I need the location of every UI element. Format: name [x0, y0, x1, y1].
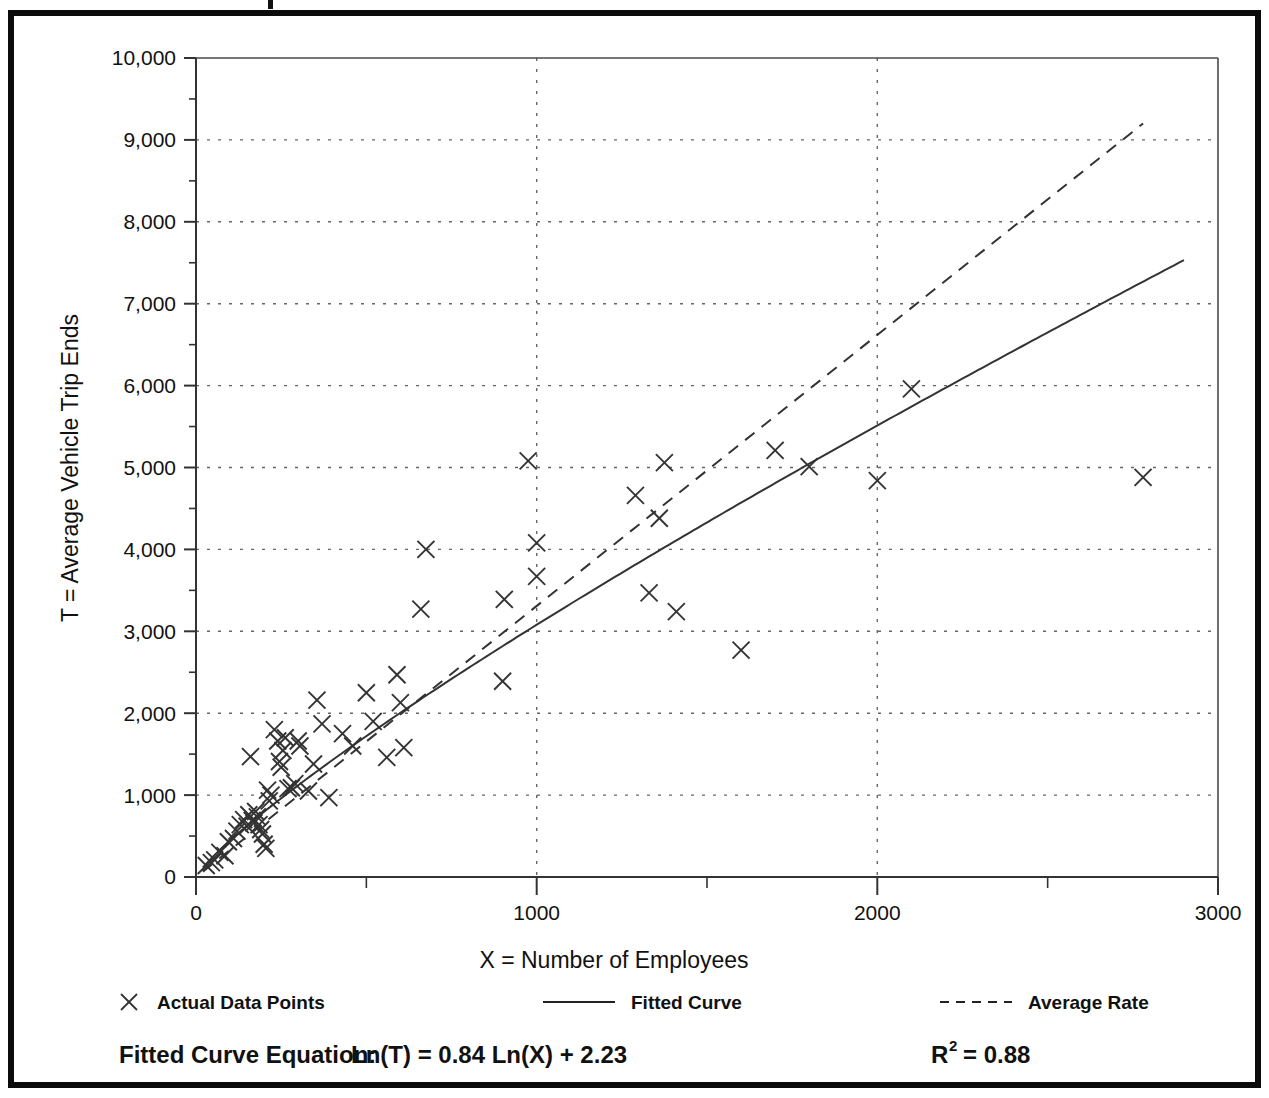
fitted-curve-line	[203, 260, 1184, 867]
data-point-marker	[334, 725, 351, 742]
data-point-marker	[365, 713, 382, 730]
y-tick-label: 4,000	[123, 538, 176, 561]
y-tick-label: 3,000	[123, 620, 176, 643]
data-point-marker	[528, 534, 545, 551]
equation-row: Fitted Curve Equation: Ln(T) = 0.84 Ln(X…	[119, 1037, 1030, 1068]
y-tick-label: 0	[164, 865, 176, 888]
y-tick-label: 5,000	[123, 456, 176, 479]
data-point-marker	[320, 789, 337, 806]
data-point-marker	[733, 642, 750, 659]
data-point-marker	[388, 666, 405, 683]
data-point-marker	[496, 591, 513, 608]
data-point-marker	[305, 755, 322, 772]
data-point-marker	[903, 380, 920, 397]
data-point-marker	[273, 759, 290, 776]
r-squared-base: R	[931, 1041, 948, 1068]
data-point-marker	[627, 487, 644, 504]
y-axis	[184, 58, 196, 877]
data-point-marker	[641, 584, 658, 601]
x-axis	[196, 877, 1218, 895]
data-point-marker	[395, 739, 412, 756]
legend-label: Actual Data Points	[157, 992, 325, 1013]
data-point-marker	[378, 749, 395, 766]
data-point-marker	[651, 510, 668, 527]
x-tick-label: 2000	[854, 901, 901, 924]
data-point-marker	[392, 694, 409, 711]
average-rate-path	[203, 124, 1143, 872]
data-point-marker	[242, 748, 259, 765]
legend-item-actual-data-points[interactable]: Actual Data Points	[121, 992, 325, 1013]
actual-data-points	[198, 380, 1152, 874]
data-point-marker	[528, 568, 545, 585]
data-point-marker	[358, 684, 375, 701]
grid-vertical	[537, 58, 878, 877]
legend-item-average-rate[interactable]: Average Rate	[940, 992, 1149, 1013]
y-axis-tick-labels: 10,000 9,000 8,000 7,000 6,000 5,000 4,0…	[112, 46, 176, 888]
data-point-marker	[417, 541, 434, 558]
average-rate-line	[203, 124, 1143, 872]
y-tick-label: 8,000	[123, 210, 176, 233]
x-axis-tick-labels: 0 1000 2000 3000	[190, 901, 1241, 924]
data-point-marker	[271, 753, 288, 770]
y-tick-label: 7,000	[123, 292, 176, 315]
plot-area-border	[196, 58, 1218, 877]
data-point-marker	[308, 692, 325, 709]
data-point-marker	[314, 715, 331, 732]
r-squared-exponent: 2	[949, 1037, 957, 1054]
data-point-marker	[656, 454, 673, 471]
fitted-curve-equation-value: Ln(T) = 0.84 Ln(X) + 2.23	[351, 1041, 627, 1068]
data-point-marker	[220, 833, 237, 850]
data-point-marker	[1135, 469, 1152, 486]
x-tick-label: 3000	[1195, 901, 1242, 924]
cross-icon	[121, 994, 137, 1010]
y-axis-title: T = Average Vehicle Trip Ends	[57, 314, 83, 622]
x-tick-label: 0	[190, 901, 202, 924]
data-point-marker	[266, 721, 283, 738]
y-tick-label: 10,000	[112, 46, 176, 69]
legend-label: Fitted Curve	[631, 992, 742, 1013]
y-tick-label: 6,000	[123, 374, 176, 397]
grid-horizontal	[196, 140, 1218, 795]
fitted-curve-path	[203, 260, 1184, 867]
data-point-marker	[412, 601, 429, 618]
y-tick-label: 9,000	[123, 128, 176, 151]
legend-item-fitted-curve[interactable]: Fitted Curve	[543, 992, 742, 1013]
chart-legend: Actual Data Points Fitted Curve Average …	[121, 992, 1149, 1013]
scatter-chart: 10,000 9,000 8,000 7,000 6,000 5,000 4,0…	[0, 0, 1269, 1098]
data-point-marker	[274, 742, 291, 759]
x-tick-label: 1000	[513, 901, 560, 924]
fitted-curve-equation-label: Fitted Curve Equation:	[119, 1041, 376, 1068]
data-point-marker	[668, 603, 685, 620]
data-point-marker	[494, 673, 511, 690]
legend-label: Average Rate	[1028, 992, 1149, 1013]
y-tick-label: 1,000	[123, 784, 176, 807]
x-axis-title: X = Number of Employees	[479, 947, 748, 973]
r-squared-value: = 0.88	[963, 1041, 1030, 1068]
y-tick-label: 2,000	[123, 702, 176, 725]
data-point-marker	[767, 442, 784, 459]
figure-root: 10,000 9,000 8,000 7,000 6,000 5,000 4,0…	[0, 0, 1269, 1098]
data-point-marker	[869, 472, 886, 489]
